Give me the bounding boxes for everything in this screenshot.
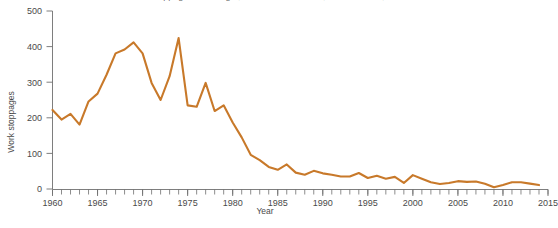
x-axis-title: Year <box>256 206 273 216</box>
y-tick-label-200: 200 <box>27 113 42 123</box>
line-chart-plot: 0100200300400500 Work stoppages 19601965… <box>0 0 558 228</box>
data-series-group <box>53 38 539 187</box>
x-tick-label-1980: 1980 <box>223 198 243 208</box>
x-tick-label-1965: 1965 <box>88 198 108 208</box>
x-tick-label-1990: 1990 <box>313 198 333 208</box>
x-tick-label-2000: 2000 <box>403 198 423 208</box>
x-tick-label-2005: 2005 <box>448 198 468 208</box>
x-tick-label-1970: 1970 <box>133 198 153 208</box>
x-axis-major-ticks <box>53 190 549 197</box>
x-tick-label-2015: 2015 <box>538 198 558 208</box>
y-tick-label-100: 100 <box>27 149 42 159</box>
x-tick-label-1960: 1960 <box>42 198 62 208</box>
chart-container: Work stoppages involving 1,000 or more w… <box>0 0 558 228</box>
x-tick-label-1975: 1975 <box>178 198 198 208</box>
series-line-0 <box>53 38 539 187</box>
y-axis: 0100200300400500 Work stoppages <box>6 6 53 194</box>
y-axis-tick-labels: 0100200300400500 <box>27 6 42 194</box>
y-tick-label-400: 400 <box>27 42 42 52</box>
y-tick-label-0: 0 <box>37 184 42 194</box>
y-tick-label-500: 500 <box>27 6 42 16</box>
y-tick-label-300: 300 <box>27 78 42 88</box>
x-axis-minor-ticks <box>53 190 549 195</box>
y-axis-title: Work stoppages <box>6 91 16 152</box>
x-tick-label-2010: 2010 <box>493 198 513 208</box>
y-axis-ticks <box>47 11 53 189</box>
x-tick-label-1995: 1995 <box>358 198 378 208</box>
x-axis-tick-labels: 1960196519701975198019851990199520002005… <box>42 198 558 208</box>
x-axis: 1960196519701975198019851990199520002005… <box>42 190 558 217</box>
